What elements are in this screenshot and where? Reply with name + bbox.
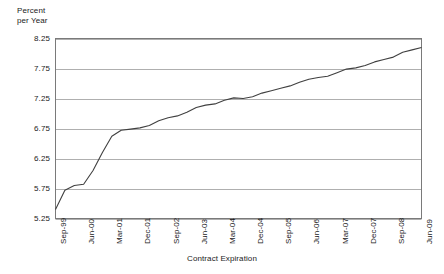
x-axis-tick-label: Mar-07 <box>341 218 350 244</box>
y-axis-tick-label: 7.25 <box>20 94 50 103</box>
y-axis-tick-label: 7.75 <box>20 64 50 73</box>
y-axis-tick-label: 5.75 <box>20 184 50 193</box>
x-axis-tick-label: Sep-99 <box>59 218 68 244</box>
x-axis-tick-label: Sep-02 <box>172 218 181 244</box>
chart-container: Percentper Year 8.257.757.256.756.255.75… <box>0 0 444 274</box>
x-axis-tick-label: Dec-04 <box>256 218 265 244</box>
x-axis-tick-label: Sep-05 <box>284 218 293 244</box>
y-axis-tick-label: 6.25 <box>20 154 50 163</box>
x-axis-tick-label: Jun-03 <box>200 219 209 244</box>
gridlines <box>56 40 422 220</box>
y-axis-tick-label: 5.25 <box>20 214 50 223</box>
x-axis-tick-label: Mar-04 <box>228 218 237 244</box>
x-axis-tick-label: Dec-01 <box>143 218 152 244</box>
x-axis-tick-label: Jun-06 <box>312 219 321 244</box>
data-line <box>56 48 422 210</box>
x-axis-tick-label: Mar-01 <box>115 218 124 244</box>
y-axis-tick-label: 6.75 <box>20 124 50 133</box>
x-axis-tick-label: Jun-00 <box>87 219 96 244</box>
x-axis-tick-label: Jun-09 <box>425 219 434 244</box>
y-axis-tick-label: 8.25 <box>20 34 50 43</box>
x-axis-title: Contract Expiration <box>0 254 444 263</box>
x-axis-tick-label: Dec-07 <box>369 218 378 244</box>
x-axis-tick-label: Sep-08 <box>397 218 406 244</box>
